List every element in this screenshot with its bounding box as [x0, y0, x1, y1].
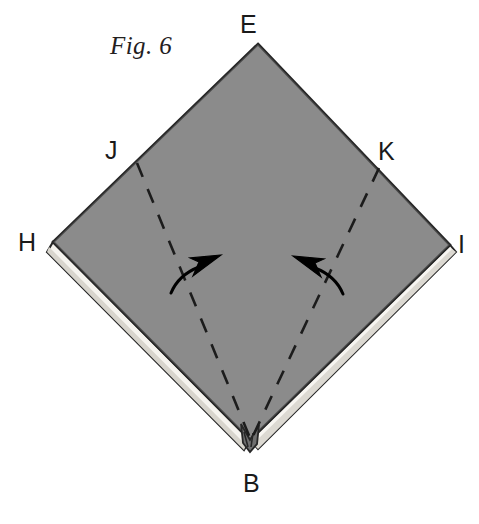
vertex-label-i: I — [458, 232, 465, 257]
vertex-label-b: B — [243, 471, 260, 496]
paper-texture — [53, 44, 450, 440]
origami-figure-panel: Fig. 6 E J K H I B — [0, 0, 479, 524]
figure-caption: Fig. 6 — [110, 33, 172, 58]
vertex-label-h: H — [18, 230, 36, 255]
vertex-label-e: E — [240, 12, 257, 37]
vertex-label-k: K — [378, 139, 395, 164]
origami-diagram-svg — [0, 0, 479, 524]
vertex-label-j: J — [105, 138, 118, 163]
